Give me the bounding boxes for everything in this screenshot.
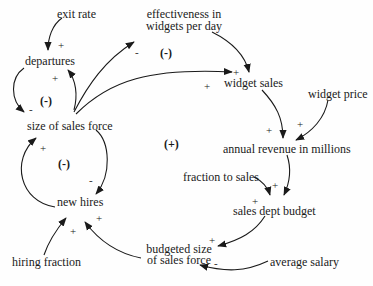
loop-label-revenue: (+) (164, 138, 179, 150)
polarity-exit-rate-departures: + (58, 39, 64, 51)
polarity-sales-force-departures: + (52, 72, 58, 84)
polarity-hiring-fraction-new-hires: + (70, 225, 76, 237)
edge-effectiveness-to-widget-sales (212, 32, 249, 72)
edge-new-hires-to-sales-force (21, 138, 55, 207)
node-effectiveness: effectiveness in widgets per day (134, 8, 234, 32)
edge-budgeted-size-to-new-hires (85, 222, 141, 258)
polarity-fraction-budget: + (252, 195, 258, 207)
polarity-revenue-budget: + (272, 179, 278, 191)
node-size-of-sales-force: size of sales force (27, 120, 113, 132)
node-departures: departures (25, 55, 75, 67)
loop-label-departures: (-) (40, 95, 52, 107)
polarity-salary-budgeted-size: - (214, 257, 218, 269)
node-budgeted-size: budgeted size of sales force (138, 244, 220, 266)
node-annual-revenue: annual revenue in millions (223, 143, 351, 155)
causal-loop-diagram: exit rate departures size of sales force… (0, 0, 373, 286)
node-sales-dept-budget: sales dept budget (233, 205, 316, 217)
node-widget-price: widget price (308, 88, 368, 100)
polarity-sales-force-new-hires: - (89, 174, 93, 186)
edge-hiring-fraction-to-new-hires (44, 218, 66, 255)
node-budgeted-size-line2: of sales force (138, 255, 220, 266)
edge-departures-to-sales-force (14, 68, 25, 112)
node-hiring-fraction: hiring fraction (12, 256, 81, 268)
loop-label-hiring: (-) (58, 158, 70, 170)
polarity-new-hires-sales-force: + (40, 142, 46, 154)
edge-sales-force-to-new-hires (96, 130, 107, 194)
polarity-sales-force-effectiveness: - (135, 46, 139, 58)
node-exit-rate: exit rate (57, 8, 96, 20)
edge-revenue-to-budget (284, 155, 290, 195)
polarity-budget-budgeted-size: + (209, 234, 215, 246)
polarity-effectiveness-widget-sales: + (233, 66, 239, 78)
polarity-widget-price-revenue: + (297, 118, 303, 130)
polarity-sales-force-widget-sales: + (204, 80, 210, 92)
node-effectiveness-line2: widgets per day (134, 20, 234, 32)
edge-sales-force-to-departures (68, 70, 76, 110)
node-fraction-to-sales: fraction to sales (183, 171, 259, 183)
edge-budget-to-budgeted-size (218, 216, 265, 246)
polarity-departures-sales-force: - (29, 103, 33, 115)
polarity-budgeted-size-new-hires: + (96, 212, 102, 224)
loop-label-effectiveness: (-) (160, 47, 172, 59)
polarity-widget-sales-revenue: + (266, 124, 272, 136)
node-new-hires: new hires (57, 196, 103, 208)
node-widget-sales: widget sales (224, 77, 283, 89)
edge-sales-force-to-effectiveness (74, 42, 134, 112)
node-average-salary: average salary (270, 256, 339, 268)
edge-sales-force-to-widget-sales (76, 71, 232, 114)
